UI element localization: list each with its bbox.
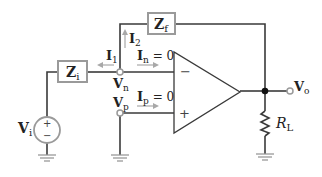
ground-load-icon xyxy=(256,154,274,160)
svg-text:Ip = 0: Ip = 0 xyxy=(137,89,174,106)
node-vo-terminal-icon xyxy=(287,88,293,94)
node-vn-terminal-icon xyxy=(117,69,123,75)
output-junction-dot-icon xyxy=(262,88,269,95)
wire-source-to-zi xyxy=(47,72,57,120)
svg-text:I1: I1 xyxy=(106,48,118,65)
ground-source-icon xyxy=(38,155,56,161)
svg-text:In = 0: In = 0 xyxy=(137,48,174,65)
arrow-up-icon xyxy=(122,29,128,35)
current-ip: Ip = 0 xyxy=(137,89,174,109)
circuit-diagram: Zi Zf + − Vi − + Vn Vp Vo I1 I2 xyxy=(0,0,322,177)
voltage-source-vi: + − Vi xyxy=(17,117,60,143)
opamp: − + xyxy=(174,52,240,133)
vo-label: Vo xyxy=(293,79,310,96)
svg-text:I2: I2 xyxy=(129,31,141,48)
plus-sign-icon: + xyxy=(43,118,51,129)
vn-label: Vn xyxy=(112,76,129,93)
svg-text:RL: RL xyxy=(275,115,294,133)
current-i1: I1 xyxy=(97,48,118,68)
opamp-plus-label: + xyxy=(179,106,190,121)
opamp-minus-label: − xyxy=(180,64,191,79)
input-impedance-zi: Zi xyxy=(58,61,87,82)
ground-vp-icon xyxy=(111,155,129,161)
svg-text:Vi: Vi xyxy=(17,120,32,138)
current-i2: I2 xyxy=(122,29,141,48)
vp-label: Vp xyxy=(112,95,129,112)
resistor-zigzag-icon xyxy=(261,111,269,136)
node-vp-terminal-icon xyxy=(117,110,123,116)
feedback-impedance-zf: Zf xyxy=(148,13,175,34)
arrow-left-icon xyxy=(97,62,103,68)
load-resistor-rl: RL xyxy=(261,111,294,136)
current-in: In = 0 xyxy=(137,48,174,68)
minus-sign-icon: − xyxy=(43,130,51,141)
